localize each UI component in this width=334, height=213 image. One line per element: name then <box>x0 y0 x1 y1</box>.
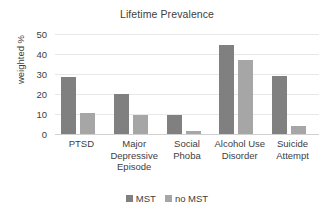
category-label-line: Suicide <box>260 138 325 150</box>
y-axis-tick-label: 10 <box>7 110 47 120</box>
bar-no-mst[interactable] <box>186 131 201 134</box>
bar-mst[interactable] <box>61 77 76 134</box>
y-axis-tick-label: 20 <box>7 90 47 100</box>
legend-item[interactable]: MST <box>126 193 156 204</box>
bar-no-mst[interactable] <box>80 113 95 134</box>
x-axis-line <box>55 134 319 135</box>
lifetime-prevalence-bar-chart: Lifetime Prevalence weighted % 010203040… <box>0 0 334 213</box>
legend-swatch-icon <box>165 195 172 202</box>
legend-label: no MST <box>175 193 208 204</box>
bar-no-mst[interactable] <box>133 115 148 134</box>
bar-mst[interactable] <box>114 94 129 134</box>
chart-title: Lifetime Prevalence <box>0 8 334 20</box>
legend-label: MST <box>136 193 156 204</box>
bar-mst[interactable] <box>167 115 182 134</box>
y-axis-tick-label: 50 <box>7 30 47 40</box>
bar-mst[interactable] <box>219 45 234 134</box>
y-axis-tick-label: 40 <box>7 50 47 60</box>
bar-group <box>213 34 266 134</box>
chart-legend: MSTno MST <box>0 193 334 204</box>
category-label-line: Attempt <box>260 150 325 162</box>
bar-group <box>55 34 108 134</box>
bar-no-mst[interactable] <box>291 126 306 134</box>
bar-mst[interactable] <box>272 76 287 134</box>
y-axis-tick-label: 0 <box>7 130 47 140</box>
bar-group <box>161 34 214 134</box>
x-axis-category-label: SuicideAttempt <box>260 138 325 161</box>
plot-area <box>55 34 319 134</box>
bar-group <box>108 34 161 134</box>
category-label-line: Episode <box>102 161 167 173</box>
y-axis-tick-label: 30 <box>7 70 47 80</box>
legend-swatch-icon <box>126 195 133 202</box>
legend-item[interactable]: no MST <box>165 193 208 204</box>
bar-no-mst[interactable] <box>238 60 253 134</box>
bar-group <box>266 34 319 134</box>
